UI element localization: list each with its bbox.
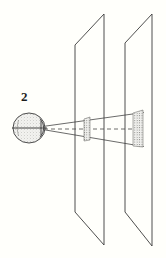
far-plane-patch	[131, 108, 146, 150]
near-plane-patch	[82, 115, 93, 143]
diagram-canvas	[0, 0, 166, 258]
near-plane-patch-fill	[82, 115, 93, 143]
eye	[12, 113, 47, 143]
figure-number-label: 2	[21, 90, 28, 103]
figure-container: 2	[0, 0, 166, 258]
projection-rays	[43, 113, 144, 147]
upper-ray	[43, 113, 144, 127]
lower-ray	[43, 130, 144, 147]
